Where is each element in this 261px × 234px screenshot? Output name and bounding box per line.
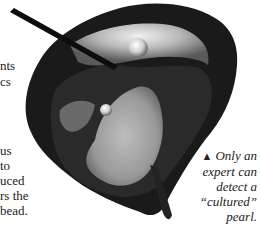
body-text-line: to	[0, 158, 10, 173]
body-text-line: bead.	[0, 203, 28, 218]
triangle-marker-icon: ▲	[202, 150, 213, 162]
caption-line: detect a	[177, 179, 257, 194]
body-text-line: cs	[0, 74, 11, 89]
body-text-line: nts	[0, 58, 15, 73]
caption-line: pearl.	[177, 209, 257, 224]
body-text-line: rs the	[0, 188, 29, 203]
caption-line: Only an	[215, 148, 257, 163]
body-text-line: us	[0, 143, 12, 158]
photo-caption: ▲Only an expert can detect a “cultured” …	[177, 148, 257, 224]
caption-line: expert can	[177, 164, 257, 179]
body-text-line: uced	[0, 173, 25, 188]
caption-line: “cultured”	[177, 194, 257, 209]
